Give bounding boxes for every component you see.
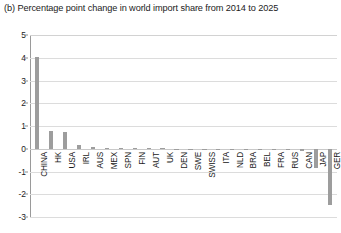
- y-tick-label: 3: [0, 76, 26, 86]
- bar-swe: [188, 149, 192, 150]
- x-tick-label-swiss: SWISS: [208, 152, 217, 178]
- bar-fin: [133, 148, 137, 149]
- bar-aus: [91, 147, 95, 148]
- bar-bel: [258, 149, 262, 150]
- x-tick-label-rus: RUS: [291, 152, 300, 169]
- x-tick-label-nld: NLD: [236, 152, 245, 168]
- x-axis-labels: CHINAHKUSAIRLAUSMEXSPNFINAUTUKDENSWESWIS…: [30, 152, 337, 214]
- bar-rus: [286, 149, 290, 150]
- y-tick-label: 2: [0, 98, 26, 108]
- y-tick-label: -2: [0, 189, 26, 199]
- x-tick-label-bel: BEL: [263, 152, 272, 167]
- x-tick-label-fra: FRA: [277, 152, 286, 168]
- x-tick-label-bra: BRA: [249, 152, 258, 168]
- x-tick-label-fin: FIN: [138, 152, 147, 165]
- y-tick-mark: [25, 171, 28, 172]
- y-tick-label: -1: [0, 167, 26, 177]
- bar-bra: [244, 149, 248, 150]
- x-tick-label-spn: SPN: [124, 152, 133, 168]
- y-tick-mark: [25, 126, 28, 127]
- y-tick-mark: [25, 57, 28, 58]
- bar-can: [300, 149, 304, 151]
- y-tick-label: -3: [0, 212, 26, 222]
- bar-mex: [105, 148, 109, 149]
- bar-nld: [230, 149, 234, 150]
- x-tick-label-ita: ITA: [222, 152, 231, 164]
- x-tick-label-usa: USA: [68, 152, 77, 168]
- x-tick-label-ger: GER: [333, 152, 341, 169]
- bar-irl: [77, 145, 81, 149]
- x-tick-label-hk: HK: [54, 152, 63, 163]
- bar-swiss: [202, 149, 206, 150]
- bar-hk: [49, 131, 53, 148]
- x-tick-label-can: CAN: [305, 152, 314, 169]
- x-tick-label-den: DEN: [180, 152, 189, 169]
- y-tick-mark: [25, 148, 28, 149]
- chart-figure: (b) Percentage point change in world imp…: [0, 0, 341, 233]
- x-tick-label-uk: UK: [166, 152, 175, 163]
- bar-aut: [147, 148, 151, 149]
- x-tick-label-jap: JAP: [319, 152, 328, 167]
- y-tick-label: 0: [0, 144, 26, 154]
- x-tick-label-irl: IRL: [82, 152, 91, 164]
- bar-den: [174, 149, 178, 150]
- bar-fra: [272, 149, 276, 150]
- x-tick-label-swe: SWE: [194, 152, 203, 170]
- bar-usa: [63, 132, 67, 149]
- bar-spn: [119, 148, 123, 149]
- x-tick-label-mex: MEX: [110, 152, 119, 169]
- x-tick-label-aus: AUS: [96, 152, 105, 168]
- bar-china: [35, 57, 39, 149]
- x-tick-label-china: CHINA: [40, 152, 49, 177]
- bar-ita: [216, 149, 220, 150]
- y-tick-mark: [25, 217, 28, 218]
- x-tick-label-aut: AUT: [152, 152, 161, 168]
- y-tick-mark: [25, 103, 28, 104]
- bar-uk: [160, 148, 164, 149]
- y-tick-mark: [25, 80, 28, 81]
- y-axis: 543210-1-2-3: [0, 35, 28, 217]
- y-tick-label: 4: [0, 53, 26, 63]
- y-tick-mark: [25, 35, 28, 36]
- chart-title: (b) Percentage point change in world imp…: [4, 3, 278, 14]
- gridline--3: [30, 217, 337, 218]
- y-tick-label: 5: [0, 30, 26, 40]
- y-tick-mark: [25, 194, 28, 195]
- y-tick-label: 1: [0, 121, 26, 131]
